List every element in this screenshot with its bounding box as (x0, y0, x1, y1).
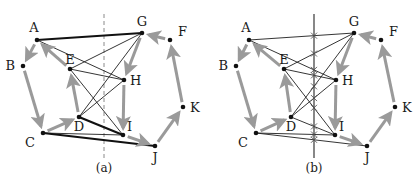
node-C (41, 131, 46, 136)
arrow-H-I (335, 85, 336, 128)
arrow-B-C (237, 71, 254, 127)
node-label-G: G (349, 14, 359, 29)
arrow-K-F (171, 47, 182, 102)
node-I (121, 133, 126, 138)
edge-E-H (284, 69, 336, 80)
edge-E-H (70, 69, 124, 80)
node-label-C: C (238, 135, 248, 150)
node-label-B: B (5, 58, 15, 73)
node-label-F: F (389, 24, 398, 39)
edge-thick-A-G (37, 33, 142, 40)
node-label-E: E (65, 52, 75, 67)
arrow-B-C (24, 71, 41, 127)
node-A (35, 38, 40, 43)
arrow-F-G (361, 35, 376, 39)
arrow-J-K (370, 113, 391, 142)
arrow-D-E (71, 76, 78, 112)
node-label-C: C (25, 135, 35, 150)
node-label-H: H (342, 73, 353, 88)
panel-label-b: (b) (305, 161, 322, 175)
node-label-I: I (127, 119, 132, 134)
arrow-F-G (149, 35, 165, 39)
node-K (181, 105, 186, 110)
node-H (334, 78, 339, 83)
arrow-J-K (158, 113, 179, 142)
node-B (234, 64, 239, 69)
panel-a: ABCDEFGHIJK(a) (5, 14, 200, 175)
arrow-D-E (285, 76, 290, 112)
node-G (140, 31, 145, 36)
arrow-A-B (239, 44, 247, 59)
arrow-I-J (340, 137, 361, 144)
arrow-C-D (48, 120, 73, 131)
node-label-D: D (74, 119, 84, 134)
node-label-D: D (286, 119, 296, 134)
graph-cut-diagram: ABCDEFGHIJK(a) ABCDEFGHIJK(b) (0, 0, 417, 185)
panel-label-a: (a) (96, 161, 113, 175)
edge-D-H (79, 80, 124, 117)
node-label-H: H (130, 73, 141, 88)
node-J (365, 144, 370, 149)
arrow-G-H (127, 38, 141, 74)
node-F (379, 38, 384, 43)
node-label-B: B (218, 58, 228, 73)
node-B (21, 64, 26, 69)
node-G (352, 31, 357, 36)
node-label-I: I (339, 119, 344, 134)
node-E (68, 67, 73, 72)
node-K (393, 105, 398, 110)
node-F (168, 38, 173, 43)
arrow-E-A (254, 44, 280, 65)
node-label-A: A (28, 20, 39, 35)
edge-thick-D-I (79, 117, 123, 135)
node-label-E: E (279, 52, 289, 67)
node-label-K: K (402, 100, 412, 115)
node-A (247, 38, 252, 43)
node-H (122, 78, 127, 83)
node-label-G: G (137, 14, 147, 29)
node-J (153, 144, 158, 149)
node-I (333, 133, 338, 138)
arrow-G-H (339, 38, 353, 74)
node-E (282, 67, 287, 72)
node-label-J: J (362, 150, 369, 165)
arrow-K-F (382, 47, 394, 102)
node-label-K: K (190, 100, 200, 115)
edge-A-G (249, 33, 354, 40)
node-label-A: A (240, 20, 251, 35)
arrow-H-I (123, 85, 124, 128)
arrow-A-B (26, 44, 34, 59)
panel-b: ABCDEFGHIJK(b) (218, 14, 412, 175)
node-C (254, 131, 259, 136)
node-label-F: F (178, 24, 187, 39)
node-label-J: J (150, 150, 157, 165)
arrow-C-D (261, 120, 285, 131)
